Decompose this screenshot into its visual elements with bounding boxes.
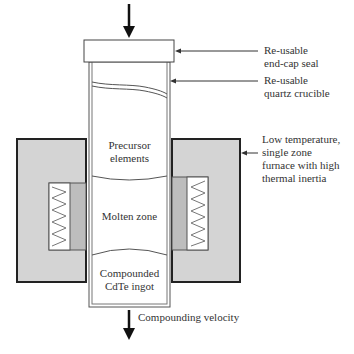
- crucible-label: Re-usable quartz crucible: [264, 74, 330, 100]
- left-furnace-block: [17, 139, 86, 282]
- molten-zone-label: Molten zone: [92, 210, 167, 223]
- compounding-velocity-label: Compounding velocity: [138, 311, 239, 324]
- bottom-arrow-icon: [123, 310, 135, 340]
- right-furnace-block: [172, 139, 240, 282]
- top-arrow-icon: [123, 4, 135, 38]
- compounding-furnace-diagram: Re-usable end-cap seal Re-usable quartz …: [0, 0, 354, 354]
- compounded-zone-label: Compounded CdTe ingot: [92, 267, 167, 293]
- precursor-zone-label: Precursor elements: [92, 139, 167, 165]
- end-cap-seal: [84, 40, 174, 62]
- end-cap-label: Re-usable end-cap seal: [264, 44, 319, 70]
- furnace-label: Low temperature, single zone furnace wit…: [262, 133, 340, 185]
